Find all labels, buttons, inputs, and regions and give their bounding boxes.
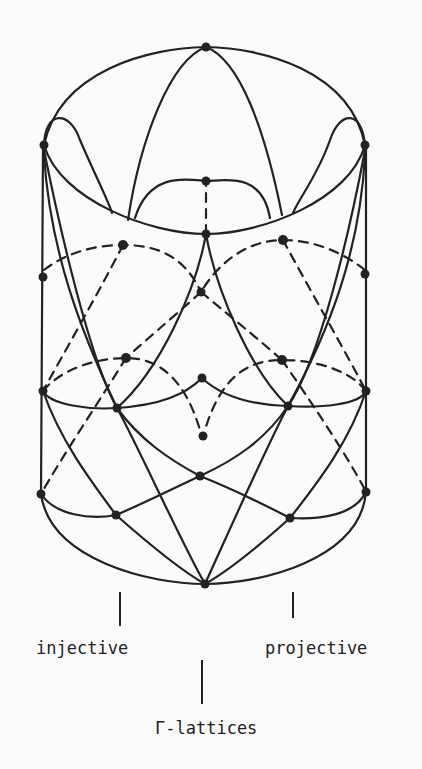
projective-tick: [292, 592, 294, 618]
label-injective: injective: [36, 638, 128, 658]
injective-tick: [119, 592, 121, 626]
left-side: [41, 145, 43, 494]
label-gamma-lattices: Γ-lattices: [155, 718, 257, 738]
label-projective: projective: [265, 638, 367, 658]
lattices-tick: [201, 660, 203, 704]
lattice-nodes: [37, 43, 371, 589]
top-rim-front: [44, 145, 365, 234]
bottom-rim: [41, 492, 366, 584]
top-rim-back: [44, 47, 365, 145]
